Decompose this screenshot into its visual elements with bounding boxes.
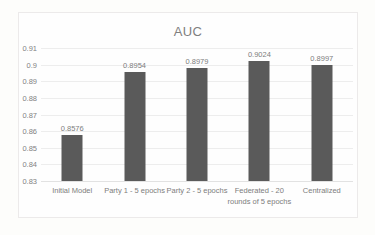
bar-group[interactable]: 0.8997Centralized bbox=[291, 48, 353, 181]
bar-group[interactable]: 0.9024Federated - 20 rounds of 5 epochs bbox=[228, 48, 290, 181]
bar-value-label: 0.8576 bbox=[61, 124, 84, 133]
bar-group[interactable]: 0.8954Party 1 - 5 epochs bbox=[103, 48, 165, 181]
bar-group[interactable]: 0.8576Initial Model bbox=[41, 48, 103, 181]
bar[interactable] bbox=[249, 61, 270, 181]
x-axis-category-label: Centralized bbox=[289, 186, 355, 197]
y-axis-tick-label: 0.86 bbox=[22, 127, 37, 136]
y-axis-tick-label: 0.87 bbox=[22, 110, 37, 119]
y-axis-tick-label: 0.89 bbox=[22, 77, 37, 86]
bar-group[interactable]: 0.8979Party 2 - 5 epochs bbox=[166, 48, 228, 181]
gridline bbox=[41, 181, 353, 182]
bar[interactable] bbox=[311, 65, 332, 181]
x-axis-category-label: Initial Model bbox=[39, 186, 105, 197]
bar-value-label: 0.8979 bbox=[186, 57, 209, 66]
plot-area: 0.910.90.890.880.870.860.850.840.83 0.85… bbox=[41, 48, 353, 181]
y-axis-tick-label: 0.88 bbox=[22, 93, 37, 102]
x-axis-category-label: Party 1 - 5 epochs bbox=[102, 186, 168, 197]
bar-series: 0.8576Initial Model0.8954Party 1 - 5 epo… bbox=[41, 48, 353, 181]
bar[interactable] bbox=[186, 68, 207, 181]
x-axis-category-label: Party 2 - 5 epochs bbox=[164, 186, 230, 197]
bar-value-label: 0.8954 bbox=[123, 61, 146, 70]
y-axis-tick-label: 0.91 bbox=[22, 44, 37, 53]
bar[interactable] bbox=[124, 72, 145, 181]
chart-title: AUC bbox=[19, 24, 357, 39]
bar-value-label: 0.8997 bbox=[310, 54, 333, 63]
x-axis-category-label: Federated - 20 rounds of 5 epochs bbox=[226, 186, 292, 208]
y-axis-tick-label: 0.85 bbox=[22, 143, 37, 152]
chart-container: AUC 0.910.90.890.880.870.860.850.840.83 … bbox=[18, 12, 358, 218]
y-axis-tick-label: 0.9 bbox=[27, 60, 37, 69]
y-axis-tick-label: 0.83 bbox=[22, 177, 37, 186]
bar[interactable] bbox=[62, 135, 83, 181]
y-axis-tick-label: 0.84 bbox=[22, 160, 37, 169]
bar-value-label: 0.9024 bbox=[248, 50, 271, 59]
